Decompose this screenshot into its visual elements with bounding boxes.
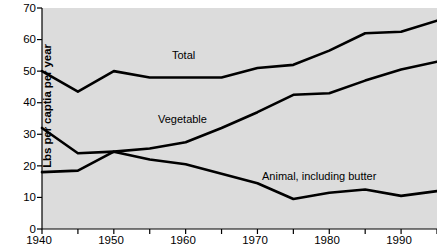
y-tick-label-60: 60 [12,33,36,45]
y-tick-label-20: 20 [12,160,36,172]
x-tick-label-1980: 1980 [307,234,347,246]
series-label-total: Total [172,49,195,61]
series-label-animal: Animal, including butter [262,170,376,182]
plot-area [0,0,437,252]
series-label-vegetable: Vegetable [158,113,207,125]
x-tick-label-1970: 1970 [235,234,275,246]
x-tick-label-1940: 1940 [19,234,59,246]
x-tick-label-1960: 1960 [163,234,203,246]
y-tick-label-70: 70 [12,2,36,14]
x-tick-label-1990: 1990 [379,234,419,246]
y-tick-label-40: 40 [12,96,36,108]
y-tick-label-30: 30 [12,128,36,140]
line-chart: Lbs per captia per year 70 60 50 40 30 2… [0,0,437,252]
x-tick-label-1950: 1950 [91,234,131,246]
y-tick-label-10: 10 [12,191,36,203]
y-tick-label-50: 50 [12,65,36,77]
y-axis-title: Lbs per captia per year [41,11,53,201]
plot-background [42,8,437,229]
